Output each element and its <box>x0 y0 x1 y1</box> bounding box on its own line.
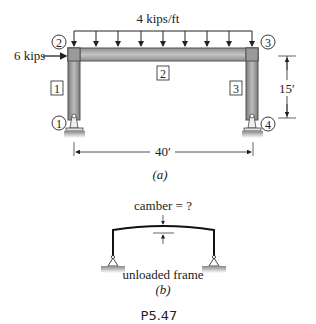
pin-support-b-left <box>101 255 125 273</box>
height-dimension: 15′ <box>278 56 296 118</box>
member-label-1: 1 <box>51 81 63 96</box>
pin-support-b-right <box>202 255 226 273</box>
joint-3 <box>246 48 258 61</box>
svg-text:1: 1 <box>54 82 60 96</box>
svg-text:1: 1 <box>56 117 62 131</box>
pin-support-right <box>242 114 263 138</box>
beam-member <box>68 48 258 61</box>
frame-diagram: 4 kips/ft 6 kips 2 3 1 4 <box>0 0 316 324</box>
pin-support-left <box>64 114 85 138</box>
member-label-2: 2 <box>157 66 169 81</box>
node-1: 1 <box>52 116 66 131</box>
svg-text:4: 4 <box>265 118 271 132</box>
distributed-load: 4 kips/ft <box>74 11 252 46</box>
svg-text:2: 2 <box>160 67 166 81</box>
problem-number: P5.47 <box>141 308 178 323</box>
unloaded-frame-label: unloaded frame <box>122 267 203 282</box>
span-dimension-label: 40′ <box>155 144 171 159</box>
span-dimension: 40′ <box>74 142 253 159</box>
svg-text:3: 3 <box>233 82 239 96</box>
height-dimension-label: 15′ <box>279 81 295 96</box>
svg-text:2: 2 <box>56 36 62 50</box>
member-label-3: 3 <box>230 81 242 96</box>
camber-label: camber = ? <box>134 198 192 213</box>
svg-text:3: 3 <box>265 36 271 50</box>
load-label: 4 kips/ft <box>137 11 180 26</box>
node-4: 4 <box>261 117 275 132</box>
joint-2 <box>68 48 80 61</box>
horizontal-load: 6 kips <box>14 48 66 63</box>
camber-indicator <box>153 215 174 244</box>
caption-a: (a) <box>152 167 167 182</box>
figure-b: camber = ? unloaded frame (b) <box>101 198 226 297</box>
figure-a: 4 kips/ft 6 kips 2 3 1 4 <box>14 11 296 182</box>
horizontal-load-label: 6 kips <box>14 48 45 63</box>
node-3: 3 <box>261 35 275 50</box>
node-2: 2 <box>52 35 66 50</box>
caption-b: (b) <box>155 282 170 297</box>
cambered-frame <box>113 226 214 256</box>
